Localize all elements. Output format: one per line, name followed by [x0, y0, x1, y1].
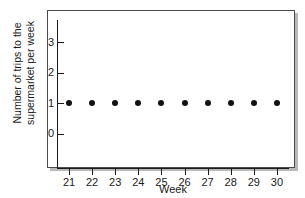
data-point — [274, 100, 280, 106]
data-point — [66, 100, 72, 106]
data-point — [228, 100, 234, 106]
data-point — [182, 100, 188, 106]
y-axis-tick-label: 3 — [38, 37, 54, 48]
y-axis-tick — [58, 134, 64, 135]
data-point — [251, 100, 257, 106]
y-axis-tick-label: 0 — [38, 128, 54, 139]
x-axis-tick — [208, 169, 209, 175]
y-axis-tick — [58, 73, 64, 74]
data-point — [205, 100, 211, 106]
y-axis-title: Number of trips to the supermarket per w… — [11, 3, 37, 143]
x-axis-tick — [138, 169, 139, 175]
y-axis-tick — [58, 103, 64, 104]
y-axis-tick — [58, 42, 64, 43]
chart-frame — [47, 10, 295, 168]
x-axis-title: Week — [57, 183, 289, 195]
chart-figure: 0123 21222324252627282930 Number of trip… — [0, 0, 305, 198]
x-axis-tick — [115, 169, 116, 175]
x-axis-tick — [92, 169, 93, 175]
x-axis-tick — [231, 169, 232, 175]
x-axis-tick — [161, 169, 162, 175]
x-axis-tick — [185, 169, 186, 175]
y-axis-title-line-1: Number of trips to the — [11, 3, 24, 143]
x-axis-tick — [254, 169, 255, 175]
y-axis-tick-label: 2 — [38, 67, 54, 78]
y-axis-title-line-2: supermarket per week — [24, 3, 37, 143]
y-axis-tick-label: 1 — [38, 98, 54, 109]
x-axis-tick — [69, 169, 70, 175]
x-axis-tick — [277, 169, 278, 175]
